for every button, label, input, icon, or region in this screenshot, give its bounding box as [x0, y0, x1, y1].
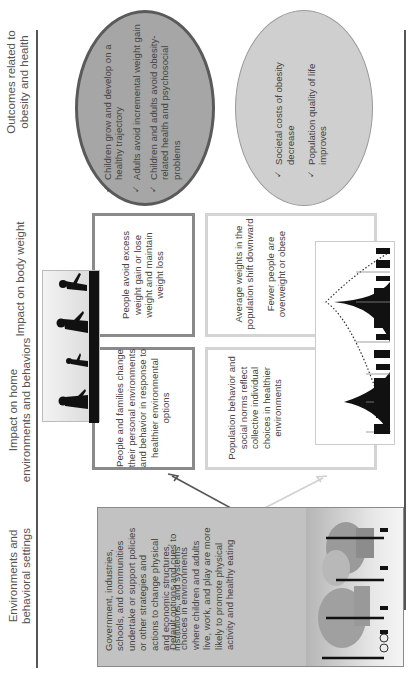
environment-paragraph-2: Default options and cues to choices in e…	[167, 526, 235, 650]
individual-outcomes-list: ✓Children grow and develop on a healthy …	[91, 23, 199, 193]
header-home-line2: environments and behaviors	[20, 338, 33, 482]
header-outcomes-line1: Outcomes related to	[5, 30, 18, 134]
header-environments-line1: Environments and	[7, 528, 20, 624]
header-home: Impact on home environments and behavior…	[4, 330, 36, 490]
population-home-text: Population behavior and social norms ref…	[213, 349, 297, 467]
check-icon: ✓	[273, 170, 284, 178]
check-icon: ✓	[148, 185, 159, 193]
header-environments-line2: behavioral settings	[20, 528, 33, 624]
outcome-item: ✓Societal costs of obesity decrease	[273, 38, 296, 178]
outcome-item: ✓Population quality of life improves	[306, 38, 329, 178]
population-outcomes-list: ✓Societal costs of obesity decrease ✓Pop…	[266, 38, 342, 178]
header-environments: Environments and behavioral settings	[4, 516, 36, 636]
outcome-item: ✓Children grow and develop on a healthy …	[102, 23, 125, 193]
population-distribution-illustration	[315, 241, 395, 445]
arrow-head-individual	[168, 474, 178, 481]
individual-weight-text: People avoid excess weight gain or lose …	[104, 220, 182, 330]
check-icon: ✓	[102, 185, 113, 193]
left-divider-line	[36, 30, 38, 668]
header-home-line1: Impact on home	[7, 338, 20, 482]
check-icon: ✓	[306, 170, 317, 178]
walking-silhouettes-illustration	[42, 270, 100, 422]
outcome-item: ✓Children and adults avoid obesity-relat…	[148, 23, 182, 193]
right-divider-line	[404, 30, 406, 610]
park-scene-illustration	[306, 508, 404, 667]
individual-home-text: People and families change their persona…	[95, 347, 191, 469]
check-icon: ✓	[131, 185, 142, 193]
outcome-item: ✓Adults avoid incremental weight gain	[131, 23, 142, 193]
header-weight-text: Impact on body weight	[14, 221, 27, 336]
header-outcomes-line2: obesity and health	[18, 30, 31, 134]
header-outcomes: Outcomes related to obesity and health	[2, 12, 34, 152]
population-weight-text: Average weights in the population shift …	[218, 214, 302, 334]
environment-text-2: Default options and cues to choices in e…	[167, 526, 263, 650]
